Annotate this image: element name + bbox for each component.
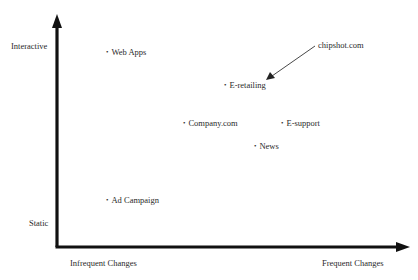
point-e-retailing: •E-retailing — [224, 80, 266, 90]
bullet-icon: • — [106, 47, 108, 57]
point-label: E-retailing — [229, 80, 265, 90]
point-company-com: •Company.com — [183, 118, 238, 128]
point-label: Web Apps — [111, 47, 146, 57]
y-axis-bottom-label: Static — [29, 218, 48, 228]
positioning-diagram: Interactive Static Infrequent Changes Fr… — [0, 0, 418, 280]
x-axis-arrowhead-icon — [396, 242, 410, 252]
callout-arrow-line — [272, 46, 315, 76]
bullet-icon: • — [183, 118, 185, 128]
point-ad-campaign: •Ad Campaign — [106, 195, 159, 205]
y-axis-top-label: Interactive — [11, 41, 47, 51]
x-axis-right-label: Frequent Changes — [322, 258, 384, 268]
point-label: Company.com — [188, 118, 237, 128]
x-axis-left-label: Infrequent Changes — [70, 258, 137, 268]
point-label: Ad Campaign — [111, 195, 158, 205]
bullet-icon: • — [281, 118, 283, 128]
callout-arrowhead-icon — [266, 72, 275, 80]
y-axis-arrowhead-icon — [52, 14, 62, 28]
callout-label: chipshot.com — [318, 40, 364, 50]
point-label: News — [259, 141, 278, 151]
bullet-icon: • — [224, 80, 226, 90]
point-news: •News — [254, 141, 279, 151]
point-web-apps: •Web Apps — [106, 47, 146, 57]
point-e-support: •E-support — [281, 118, 320, 128]
bullet-icon: • — [254, 141, 256, 151]
bullet-icon: • — [106, 195, 108, 205]
point-label: E-support — [286, 118, 320, 128]
